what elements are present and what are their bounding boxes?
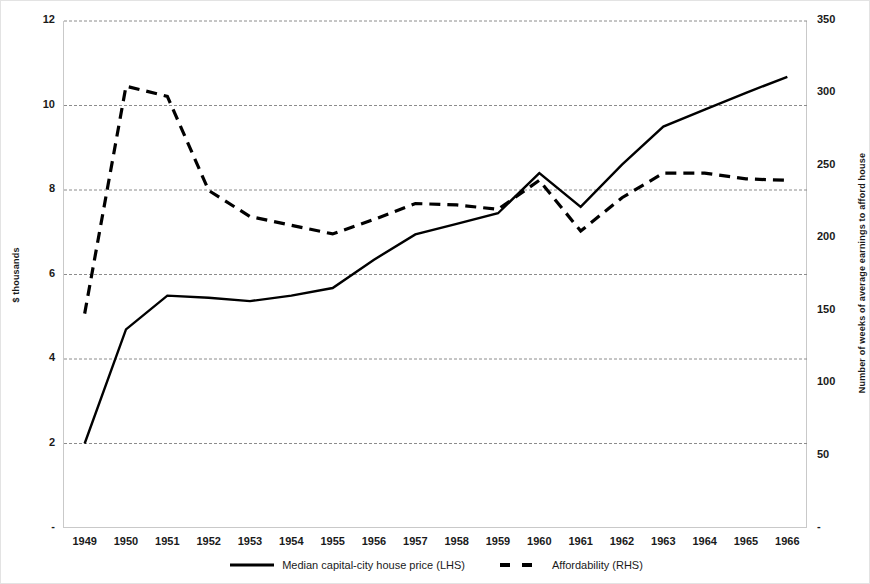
left-tick-label: - [9, 520, 55, 532]
gridlines [64, 21, 808, 444]
chart-legend: Median capital-city house price (LHS)Aff… [1, 559, 870, 571]
x-tick-label-1962: 1962 [599, 535, 645, 547]
legend-label: Median capital-city house price (LHS) [282, 559, 465, 571]
x-tick-label-1965: 1965 [723, 535, 769, 547]
x-tick-label-1951: 1951 [144, 535, 190, 547]
plot-area [63, 21, 807, 528]
left-tick-label: 10 [9, 98, 55, 110]
right-tick-label: 250 [817, 158, 867, 170]
x-tick-label-1961: 1961 [558, 535, 604, 547]
x-tick-label-1959: 1959 [475, 535, 521, 547]
legend-swatch-solid [229, 560, 275, 570]
left-tick-label: 2 [9, 436, 55, 448]
legend-label: Affordability (RHS) [552, 559, 643, 571]
left-tick-label: 12 [9, 13, 55, 25]
x-tick-label-1966: 1966 [764, 535, 810, 547]
x-tick-label-1949: 1949 [62, 535, 108, 547]
series-layer [85, 77, 788, 444]
legend-item-2[interactable]: Affordability (RHS) [499, 559, 643, 571]
x-tick-label-1964: 1964 [682, 535, 728, 547]
x-tick-label-1950: 1950 [103, 535, 149, 547]
right-tick-label: 150 [817, 303, 867, 315]
right-tick-label: - [817, 520, 867, 532]
x-tick-label-1953: 1953 [227, 535, 273, 547]
chart-container: $ thousands Number of weeks of average e… [0, 0, 870, 584]
x-tick-label-1955: 1955 [310, 535, 356, 547]
legend-item-1[interactable]: Median capital-city house price (LHS) [229, 559, 465, 571]
x-tick-label-1958: 1958 [434, 535, 480, 547]
x-tick-label-1963: 1963 [640, 535, 686, 547]
left-tick-label: 4 [9, 351, 55, 363]
x-tick-label-1956: 1956 [351, 535, 397, 547]
legend-swatch-dashed [499, 560, 545, 570]
left-tick-label: 8 [9, 182, 55, 194]
right-tick-label: 300 [817, 85, 867, 97]
right-tick-label: 50 [817, 448, 867, 460]
right-axis-title: Number of weeks of average earnings to a… [857, 153, 867, 393]
right-tick-label: 100 [817, 375, 867, 387]
right-tick-label: 350 [817, 13, 867, 25]
x-tick-label-1952: 1952 [186, 535, 232, 547]
x-tick-label-1954: 1954 [268, 535, 314, 547]
x-tick-label-1957: 1957 [392, 535, 438, 547]
plot-svg [63, 21, 809, 528]
x-tick-label-1960: 1960 [516, 535, 562, 547]
series-line-1 [85, 77, 788, 444]
left-tick-label: 6 [9, 267, 55, 279]
right-tick-label: 200 [817, 230, 867, 242]
